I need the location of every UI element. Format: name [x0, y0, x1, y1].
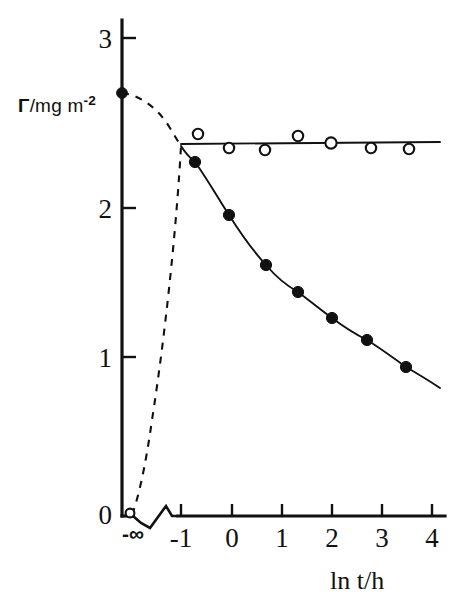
filled-marker-7 [400, 361, 411, 372]
y-axis-title-unit: /mg m [30, 95, 84, 116]
y-tick-group: 3 2 1 0 [99, 24, 137, 530]
open-marker-5 [325, 137, 336, 148]
open-marker-4 [293, 131, 303, 141]
filled-marker-4 [292, 286, 303, 297]
filled-series-group [117, 88, 440, 388]
y-tick-label-2: 2 [99, 194, 113, 224]
filled-marker-5 [326, 312, 337, 323]
dashed-curve-path [122, 93, 181, 512]
y-axis-title-symbol: Γ [18, 95, 30, 116]
y-tick-label-0: 0 [99, 500, 113, 530]
open-marker-2 [224, 143, 234, 153]
open-series-plateau-line [181, 142, 440, 144]
open-series-group [181, 129, 440, 155]
origin-open-marker [126, 509, 135, 518]
y-axis-title-exponent: -2 [83, 93, 96, 108]
open-marker-3 [260, 145, 270, 155]
x-tick-label-neg-infinity: -∞ [122, 522, 144, 545]
y-axis-title: Γ/mg m-2 [18, 96, 96, 115]
open-marker-1 [193, 129, 203, 139]
filled-marker-6 [361, 334, 372, 345]
x-tick-label-neg1: -1 [170, 523, 193, 553]
filled-marker-neg-infinity [117, 88, 128, 99]
filled-marker-2 [223, 209, 234, 220]
chart-canvas: 3 2 1 0 -1 0 1 2 3 4 -∞ [0, 0, 455, 606]
filled-marker-3 [260, 259, 271, 270]
open-marker-7 [404, 144, 414, 154]
x-tick-label-1: 1 [275, 523, 289, 553]
filled-marker-1 [189, 156, 200, 167]
x-axis-title: ln t/h [330, 566, 384, 595]
filled-series-curve [181, 146, 440, 388]
x-tick-label-0: 0 [225, 523, 239, 553]
x-tick-label-4: 4 [425, 523, 439, 553]
x-tick-label-2: 2 [325, 523, 339, 553]
x-tick-label-3: 3 [375, 523, 389, 553]
open-marker-6 [366, 143, 376, 153]
y-tick-label-3: 3 [99, 24, 113, 54]
y-tick-label-1: 1 [99, 343, 113, 373]
dashed-guide-curve [122, 93, 181, 512]
figure-root: 3 2 1 0 -1 0 1 2 3 4 -∞ [0, 0, 455, 606]
